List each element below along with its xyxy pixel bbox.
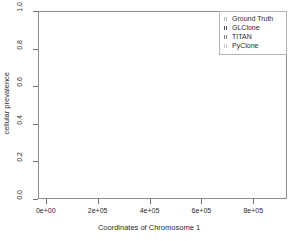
x-axis-title: Coordinates of Chromosome 1 <box>0 223 298 232</box>
legend-label: GLClone <box>232 24 260 32</box>
legend-item: GLClone <box>224 24 283 32</box>
x-tick-label: 8e+05 <box>233 207 273 214</box>
legend-item: PyClone <box>224 42 283 50</box>
x-tick <box>46 199 47 204</box>
x-tick-label: 2e+05 <box>78 207 118 214</box>
x-tick <box>150 199 151 204</box>
y-tick-label: 1.0 <box>16 2 30 12</box>
legend-swatch-icon <box>224 26 228 30</box>
y-tick-label: 0.2 <box>16 152 30 162</box>
x-tick <box>98 199 99 204</box>
chart-figure: cellular prevalence 0.00.20.40.60.81.0 0… <box>0 0 298 241</box>
x-tick-label: 6e+05 <box>181 207 221 214</box>
y-tick-label: 0.4 <box>16 115 30 125</box>
x-tick-label: 0e+00 <box>26 207 66 214</box>
x-tick-label: 4e+05 <box>130 207 170 214</box>
legend-swatch-icon <box>224 35 228 39</box>
y-axis-title: cellular prevalence <box>2 72 11 135</box>
legend-item: TITAN <box>224 33 283 41</box>
y-tick-label: 0.6 <box>16 77 30 87</box>
legend-swatch-icon <box>224 17 228 21</box>
legend-label: Ground Truth <box>232 15 273 23</box>
y-tick-label: 0.0 <box>16 190 30 200</box>
legend: Ground TruthGLCloneTITANPyClone <box>219 11 287 55</box>
legend-label: TITAN <box>232 33 252 41</box>
legend-label: PyClone <box>232 42 258 50</box>
y-tick-label: 0.8 <box>16 40 30 50</box>
legend-swatch-icon <box>224 44 228 48</box>
y-tick <box>33 199 38 200</box>
x-tick <box>201 199 202 204</box>
legend-item: Ground Truth <box>224 15 283 23</box>
x-tick <box>253 199 254 204</box>
